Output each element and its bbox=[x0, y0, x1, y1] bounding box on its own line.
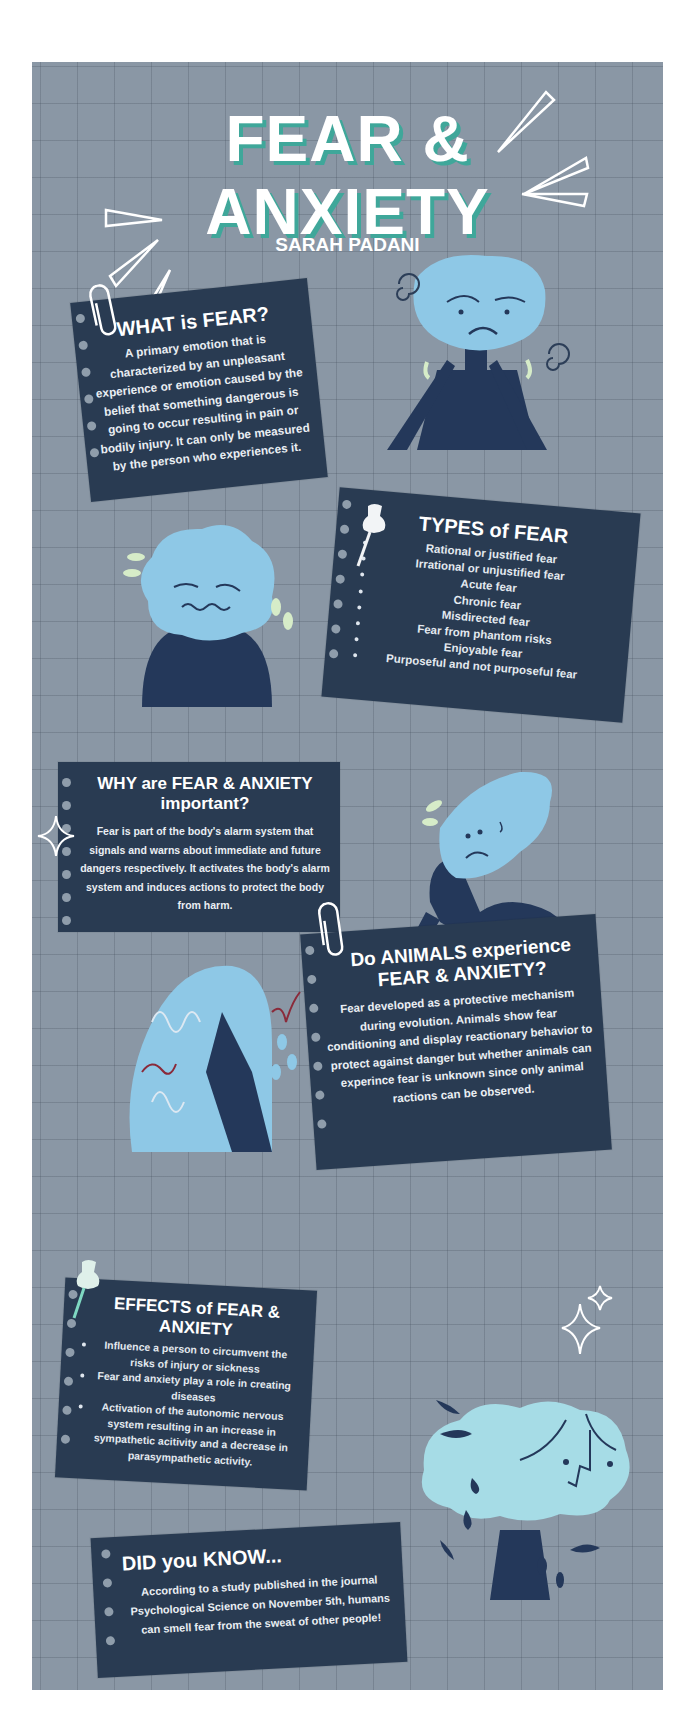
body-animals: Fear developed as a protective mechanism… bbox=[323, 982, 598, 1111]
body-what-is-fear: A primary emotion that is characterized … bbox=[89, 326, 313, 477]
heading-animals: Do ANIMALS experience FEAR & ANXIETY? bbox=[347, 934, 576, 994]
card-why-important: WHY are FEAR & ANXIETY important? Fear i… bbox=[58, 762, 340, 932]
illustration-crying-figure bbox=[112, 962, 322, 1152]
illustration-worried-figure bbox=[112, 517, 302, 707]
heading-did-you-know: DID you KNOW... bbox=[121, 1538, 394, 1575]
list-item: Activation of the autonomic nervous syst… bbox=[70, 1398, 301, 1472]
body-why-important: Fear is part of the body's alarm system … bbox=[80, 822, 330, 915]
heading-why-line-1: WHY are FEAR & ANXIETY bbox=[80, 774, 330, 794]
heading-effects: EFFECTS of FEAR & ANXIETY bbox=[97, 1293, 297, 1343]
card-did-you-know: DID you KNOW... According to a study pub… bbox=[91, 1522, 408, 1678]
illustration-dizzy-figure bbox=[377, 250, 577, 450]
infographic-poster: FEAR & ANXIETY SARAH PADANI WHAT is FEAR… bbox=[32, 62, 663, 1690]
paper-holes bbox=[101, 1549, 115, 1645]
sparkle-icon bbox=[560, 1284, 620, 1364]
body-did-you-know: According to a study published in the jo… bbox=[123, 1569, 398, 1640]
heading-why-line-2: important? bbox=[80, 794, 330, 814]
illustration-cloud-head-figure bbox=[410, 1390, 650, 1600]
sparkle-icon bbox=[36, 814, 76, 858]
pushpin-icon bbox=[68, 1258, 104, 1322]
effects-list: Influence a person to circumvent the ris… bbox=[70, 1336, 304, 1472]
title-line-1: FEAR & bbox=[32, 107, 663, 171]
pushpin-icon bbox=[352, 502, 392, 572]
